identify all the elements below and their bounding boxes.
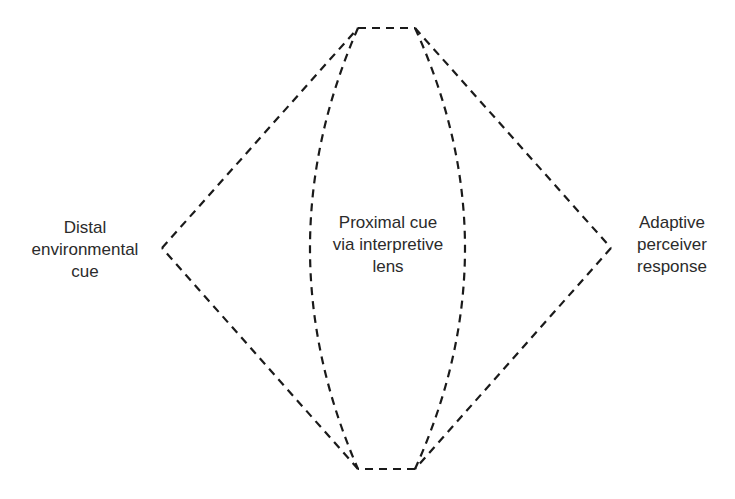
label-line: Adaptive [612,212,732,234]
label-line: environmental [10,239,160,261]
label-line: via interpretive [313,234,463,256]
label-line: lens [313,256,463,278]
label-line: response [612,256,732,278]
proximal-cue-label: Proximal cue via interpretive lens [313,212,463,278]
distal-cue-label: Distal environmental cue [10,217,160,283]
outer-left-lower-edge [162,248,358,469]
label-line: cue [10,261,160,283]
label-line: Proximal cue [313,212,463,234]
perceiver-response-label: Adaptive perceiver response [612,212,732,278]
label-line: Distal [10,217,160,239]
outer-right-lower-edge [415,248,611,469]
label-line: perceiver [612,234,732,256]
